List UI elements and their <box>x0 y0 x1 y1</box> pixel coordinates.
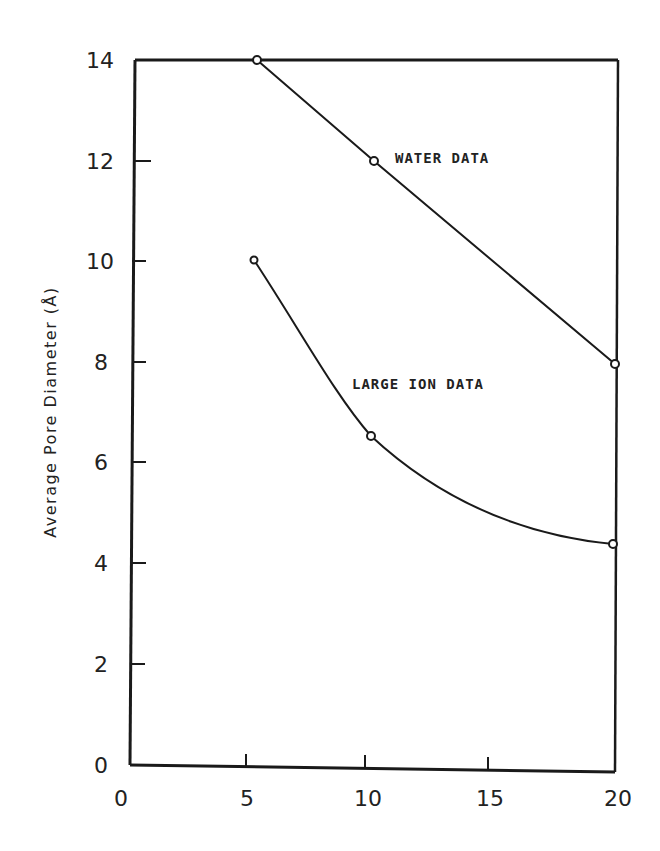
y-tick-label: 12 <box>86 149 114 174</box>
y-tick-label: 0 <box>94 753 108 778</box>
label-water-data: WATER DATA <box>395 150 489 166</box>
series-large-ion-data <box>251 257 618 549</box>
data-point-marker <box>370 157 378 165</box>
chart-canvas: 14 12 10 8 6 4 2 0 0 5 10 15 20 Average … <box>0 0 660 851</box>
y-tick-label: 14 <box>86 48 114 73</box>
x-tick-label: 0 <box>114 786 128 811</box>
x-tick-label: 5 <box>240 786 254 811</box>
series-water-data <box>253 56 619 368</box>
plot-frame <box>130 60 618 772</box>
y-axis-title: Average Pore Diameter (Å) <box>41 286 60 538</box>
data-point-marker <box>367 432 375 440</box>
y-tick-label: 4 <box>94 551 108 576</box>
label-large-ion-data: LARGE ION DATA <box>352 376 484 392</box>
y-tick-label: 6 <box>94 450 108 475</box>
x-tick-labels: 0 5 10 15 20 <box>114 786 632 811</box>
y-tick-label: 8 <box>94 350 108 375</box>
x-tick-label: 20 <box>604 786 632 811</box>
x-tick-label: 10 <box>354 786 382 811</box>
data-point-marker <box>251 257 258 264</box>
data-point-marker <box>609 540 617 548</box>
y-tick-label: 10 <box>86 249 114 274</box>
x-tick-label: 15 <box>476 786 504 811</box>
y-tick-labels: 14 12 10 8 6 4 2 0 <box>86 48 114 778</box>
data-point-marker <box>611 360 619 368</box>
y-tick-label: 2 <box>94 652 108 677</box>
data-point-marker <box>253 56 261 64</box>
